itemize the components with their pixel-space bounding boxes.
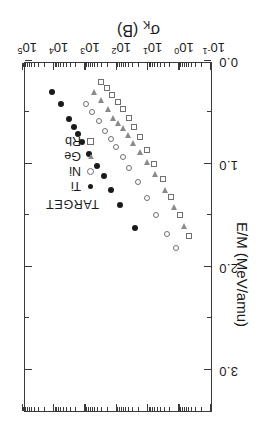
x-axis-minor-tick — [60, 63, 61, 67]
x-axis-minor-tick — [88, 63, 89, 67]
x-axis-minor-tick — [154, 63, 155, 67]
x-axis-minor-tick — [23, 63, 24, 67]
data-point-ni — [126, 165, 132, 171]
x-axis-minor-tick — [150, 63, 151, 67]
x-axis-minor-tick — [119, 63, 120, 67]
x-axis-minor-tick — [29, 63, 30, 67]
data-point-ti — [117, 202, 123, 208]
legend-entries: TiNiGeRb — [46, 134, 99, 194]
data-point-ge — [105, 106, 111, 112]
x-axis-minor-tick — [195, 63, 196, 67]
x-axis-minor-tick — [29, 407, 30, 411]
y-axis-minor-tick — [207, 111, 211, 112]
x-axis-minor-tick — [201, 407, 202, 411]
data-point-ti — [49, 89, 55, 95]
y-axis-major-tick — [204, 369, 211, 370]
x-axis-minor-tick — [56, 63, 57, 67]
legend-marker-cell — [83, 154, 99, 159]
x-axis-minor-tick — [107, 63, 108, 67]
data-point-ni — [120, 154, 126, 160]
x-axis-minor-tick — [164, 63, 165, 67]
x-axis-minor-tick — [58, 407, 59, 411]
y-axis-major-tick — [204, 163, 211, 164]
data-point-ni — [83, 101, 89, 107]
legend-item-label: Ge — [64, 150, 83, 164]
x-axis-minor-tick — [180, 63, 181, 67]
data-point-ni — [96, 118, 102, 124]
legend-marker-cell — [83, 184, 99, 189]
data-point-ti — [66, 116, 72, 122]
x-axis-minor-tick — [117, 63, 118, 67]
x-axis-minor-tick — [90, 407, 91, 411]
x-axis-minor-tick — [23, 407, 24, 411]
legend-title: TARGET — [46, 197, 99, 211]
x-axis-tick-label: 10-1 — [203, 40, 225, 55]
x-axis-minor-tick — [34, 407, 35, 411]
x-axis-minor-tick — [27, 63, 28, 67]
x-axis-minor-tick — [182, 407, 183, 411]
data-point-ti — [71, 124, 77, 130]
x-axis-major-tick — [178, 63, 179, 70]
x-axis-minor-tick — [44, 63, 45, 67]
data-point-ni — [135, 179, 141, 185]
x-axis-minor-tick — [180, 407, 181, 411]
legend-item-rb: Rb — [46, 134, 99, 149]
x-axis-major-tick — [147, 63, 148, 70]
y-axis-major-tick — [25, 163, 32, 164]
data-point-ni — [102, 128, 108, 134]
y-axis-major-tick — [25, 266, 32, 267]
x-axis-major-tick — [53, 63, 54, 70]
data-point-ti — [101, 173, 107, 179]
x-axis-minor-tick — [101, 63, 102, 67]
data-point-ge — [144, 159, 150, 165]
x-axis-minor-tick — [169, 63, 170, 67]
x-axis-major-tick — [84, 404, 85, 411]
x-axis-minor-tick — [149, 407, 150, 411]
data-point-ge — [98, 97, 104, 103]
x-axis-major-tick — [178, 404, 179, 411]
x-axis-minor-tick — [27, 407, 28, 411]
x-axis-minor-tick — [88, 407, 89, 411]
x-axis-tick-label: 102 — [112, 40, 131, 55]
x-axis-minor-tick — [60, 407, 61, 411]
x-axis-major-tick — [210, 404, 211, 411]
x-axis-minor-tick — [97, 407, 98, 411]
x-axis-minor-tick — [150, 407, 151, 411]
open-circle-icon — [88, 168, 95, 175]
x-axis-major-tick — [116, 404, 117, 411]
x-axis-minor-tick — [31, 407, 32, 411]
data-point-rb — [137, 134, 143, 140]
x-axis-minor-tick — [123, 63, 124, 67]
x-axis-minor-tick — [121, 63, 122, 67]
y-axis-minor-tick — [25, 111, 29, 112]
open-triangle-icon — [88, 154, 94, 159]
data-point-ge — [162, 187, 168, 193]
legend-item-ni: Ni — [46, 164, 99, 179]
x-axis-minor-tick — [184, 407, 185, 411]
x-axis-minor-tick — [90, 63, 91, 67]
x-axis-minor-tick — [58, 63, 59, 67]
data-point-ni — [164, 231, 170, 237]
x-axis-minor-tick — [132, 407, 133, 411]
x-axis-minor-tick — [138, 407, 139, 411]
plot-frame: TARGET TiNiGeRb — [24, 62, 212, 412]
x-axis-minor-tick — [195, 407, 196, 411]
x-axis-minor-tick — [201, 63, 202, 67]
legend: TARGET TiNiGeRb — [46, 134, 99, 211]
x-axis-minor-tick — [152, 407, 153, 411]
x-axis-minor-tick — [86, 407, 87, 411]
y-axis-major-tick — [25, 369, 32, 370]
data-point-ni — [108, 136, 114, 142]
data-point-ni — [113, 144, 119, 150]
x-axis-minor-tick — [152, 63, 153, 67]
x-axis-minor-tick — [138, 63, 139, 67]
x-axis-major-tick — [53, 404, 54, 411]
x-axis-minor-tick — [119, 407, 120, 411]
data-point-ti — [108, 187, 114, 193]
x-axis-title: σK (B) — [0, 21, 277, 39]
x-axis-minor-tick — [97, 63, 98, 67]
x-axis-minor-tick — [128, 63, 129, 67]
x-axis-minor-tick — [125, 407, 126, 411]
data-point-ni — [173, 245, 179, 251]
y-axis-major-tick — [25, 60, 32, 61]
